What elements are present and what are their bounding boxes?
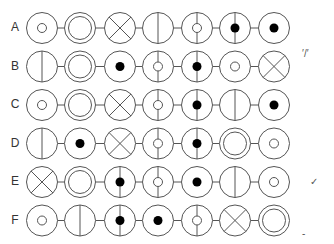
symbol-dot-icon[interactable] xyxy=(143,205,174,236)
symbol-vline-small-open-icon[interactable] xyxy=(143,167,174,198)
symbol-vline-icon[interactable] xyxy=(220,90,251,121)
row-label-a: A xyxy=(8,20,22,34)
symbol-cross-icon[interactable] xyxy=(259,51,290,82)
symbol-vline-dot-icon[interactable] xyxy=(220,13,251,44)
symbol-dot-icon[interactable] xyxy=(65,128,96,159)
row-label-d: D xyxy=(8,136,22,150)
symbol-double-icon[interactable] xyxy=(65,13,96,44)
symbol-vline-small-open-icon[interactable] xyxy=(182,13,213,44)
symbol-cross-icon[interactable] xyxy=(105,13,136,44)
symbol-small-open-icon[interactable] xyxy=(220,51,251,82)
handwritten-mark: ′/′ xyxy=(302,48,309,59)
symbol-small-open-icon[interactable] xyxy=(259,167,290,198)
symbol-cross-icon[interactable] xyxy=(220,205,251,236)
symbol-small-open-icon[interactable] xyxy=(27,205,58,236)
row-label-c: C xyxy=(8,97,22,111)
handwritten-mark: ✓ xyxy=(310,176,318,187)
symbol-double-icon[interactable] xyxy=(65,90,96,121)
symbol-vline-dot-icon[interactable] xyxy=(105,167,136,198)
symbol-dot-icon[interactable] xyxy=(105,51,136,82)
symbol-vline-dot-icon[interactable] xyxy=(182,90,213,121)
symbol-vline-small-open-icon[interactable] xyxy=(182,205,213,236)
symbol-dot-icon[interactable] xyxy=(259,90,290,121)
symbol-vline-icon[interactable] xyxy=(220,167,251,198)
symbol-double-icon[interactable] xyxy=(65,51,96,82)
symbol-vline-small-open-icon[interactable] xyxy=(143,90,174,121)
symbol-vline-dot-icon[interactable] xyxy=(182,51,213,82)
symbol-vline-icon[interactable] xyxy=(143,13,174,44)
symbol-grid-canvas xyxy=(0,0,334,244)
symbol-vline-dot-icon[interactable] xyxy=(182,128,213,159)
row-label-e: E xyxy=(8,174,22,188)
symbol-cross-icon[interactable] xyxy=(105,90,136,121)
symbol-vline-dot-icon[interactable] xyxy=(105,205,136,236)
symbol-cross-icon[interactable] xyxy=(105,128,136,159)
symbol-double-icon[interactable] xyxy=(65,167,96,198)
symbol-cross-icon[interactable] xyxy=(27,167,58,198)
symbol-vline-icon[interactable] xyxy=(27,128,58,159)
symbol-vline-small-open-icon[interactable] xyxy=(143,128,174,159)
row-label-b: B xyxy=(8,59,22,73)
handwritten-mark: - xyxy=(302,228,305,239)
symbol-dot-icon[interactable] xyxy=(182,167,213,198)
symbol-vline-icon[interactable] xyxy=(65,205,96,236)
symbol-vline-icon[interactable] xyxy=(27,51,58,82)
symbol-small-open-icon[interactable] xyxy=(259,128,290,159)
symbol-small-open-icon[interactable] xyxy=(27,13,58,44)
symbol-small-open-icon[interactable] xyxy=(27,90,58,121)
symbol-double-icon[interactable] xyxy=(259,205,290,236)
symbol-vline-small-open-icon[interactable] xyxy=(143,51,174,82)
symbol-dot-icon[interactable] xyxy=(259,13,290,44)
symbol-grid: ABCDEF′/′✓- xyxy=(0,0,334,244)
symbol-double-icon[interactable] xyxy=(220,128,251,159)
row-label-f: F xyxy=(8,213,22,227)
